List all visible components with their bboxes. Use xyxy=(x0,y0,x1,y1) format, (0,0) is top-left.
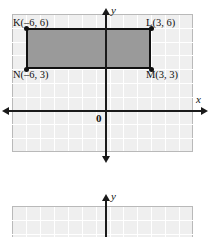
rectangle-klmn xyxy=(26,28,151,69)
y-axis-label-top: y xyxy=(111,5,116,16)
grid-plane-bottom xyxy=(12,206,193,237)
gridlines-bottom xyxy=(12,206,193,237)
y-axis-bottom xyxy=(105,200,107,237)
point-label-n: N(–6, 3) xyxy=(13,70,49,81)
y-axis-top xyxy=(105,14,107,157)
y-axis-up-arrow-icon xyxy=(102,8,110,15)
x-axis-left-arrow-icon xyxy=(2,107,9,115)
point-label-k: K(–6, 6) xyxy=(13,18,49,29)
y-axis-bottom-up-arrow-icon xyxy=(102,194,110,201)
x-axis-right-arrow-icon xyxy=(201,107,208,115)
x-axis-label-top: x xyxy=(196,94,201,105)
point-label-l: L(3, 6) xyxy=(146,18,175,29)
graph-bottom: y xyxy=(0,160,211,237)
point-label-m: M(3, 3) xyxy=(146,70,178,81)
coordinate-geometry-figure: y x 0 K(–6, 6) L(3, 6) M(3, 3) N(–6, 3) xyxy=(0,0,211,237)
y-axis-label-bottom: y xyxy=(111,191,116,202)
graph-top: y x 0 K(–6, 6) L(3, 6) M(3, 3) N(–6, 3) xyxy=(0,0,211,160)
origin-label-top: 0 xyxy=(96,113,102,124)
